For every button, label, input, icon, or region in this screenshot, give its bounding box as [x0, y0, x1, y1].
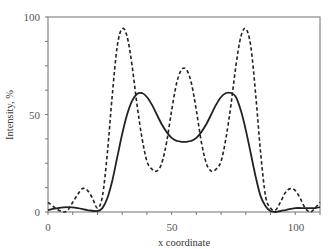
dashed-series-line	[48, 28, 320, 212]
data-series	[48, 28, 320, 212]
x-axis-label: x coordinate	[158, 237, 211, 248]
axis-ticks	[45, 17, 320, 215]
y-tick-label-0: 0	[35, 206, 41, 218]
plot-area: 100 50 0 0 50 100 x coordinate Intensity…	[0, 0, 336, 249]
intensity-chart: 100 50 0 0 50 100 x coordinate Intensity…	[0, 0, 336, 249]
axes-frame	[48, 17, 320, 212]
x-tick-label-0: 0	[45, 221, 51, 233]
y-tick-label-50: 50	[29, 109, 41, 121]
y-axis-label: Intensity, %	[4, 90, 15, 140]
x-tick-label-50: 50	[167, 221, 179, 233]
y-tick-label-100: 100	[24, 11, 41, 23]
x-tick-label-100: 100	[288, 221, 305, 233]
solid-series-line	[48, 93, 320, 212]
